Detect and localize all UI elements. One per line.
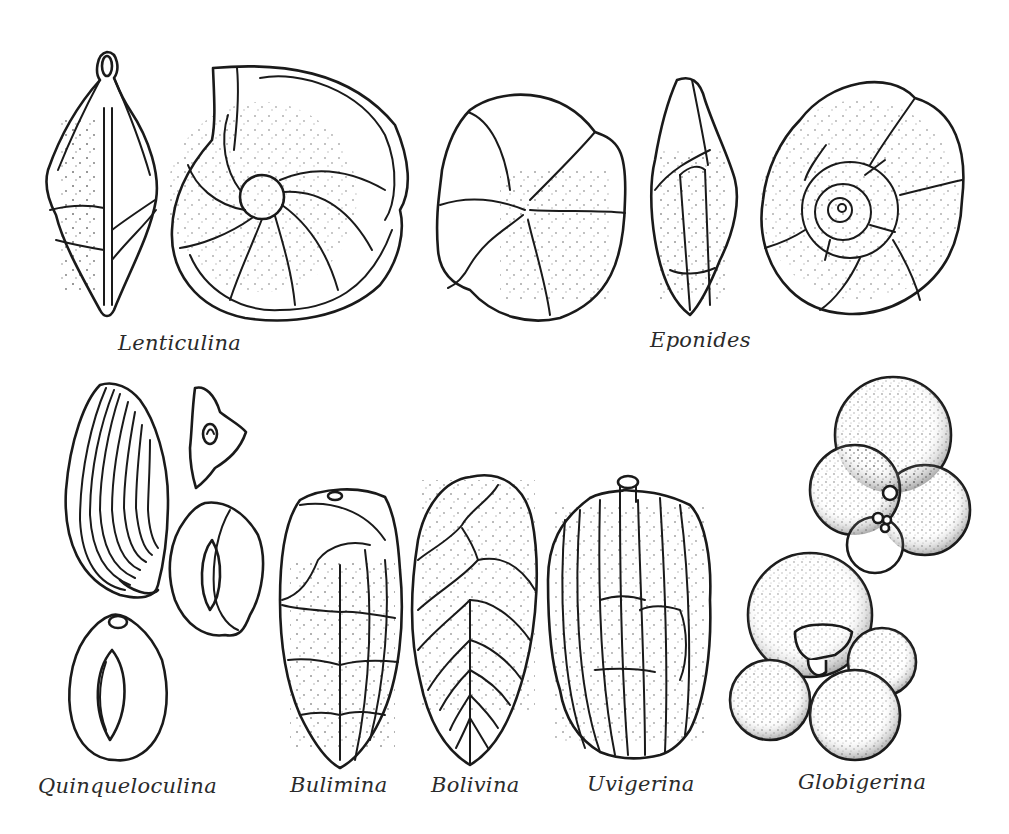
label-uvigerina: Uvigerina <box>587 772 695 796</box>
globigerina-umbilical-view <box>730 553 916 760</box>
specimen-drawings <box>0 0 1009 834</box>
foraminifera-plate: Lenticulina Eponides Quinqueloculina Bul… <box>0 0 1009 834</box>
quinqueloculina-side-view-b <box>69 615 166 761</box>
bulimina-side-view <box>280 489 402 768</box>
label-globigerina: Globigerina <box>798 770 926 794</box>
globigerina-spiral-view <box>810 377 970 573</box>
eponides-edge-view <box>651 78 737 315</box>
label-lenticulina: Lenticulina <box>118 331 241 355</box>
quinqueloculina-costate-test <box>66 383 168 597</box>
lenticulina-edge-view <box>46 52 156 316</box>
label-quinqueloculina: Quinqueloculina <box>38 774 217 798</box>
label-bulimina: Bulimina <box>290 773 387 797</box>
eponides-spiral-view <box>760 82 963 314</box>
uvigerina-side-view <box>548 476 710 758</box>
label-bolivina: Bolivina <box>431 773 520 797</box>
quinqueloculina-apertural-view <box>190 387 246 488</box>
label-eponides: Eponides <box>650 328 751 352</box>
quinqueloculina-side-view-a <box>170 503 263 636</box>
lenticulina-side-view <box>167 66 408 320</box>
bolivina-side-view <box>412 475 537 765</box>
eponides-umbilical-view <box>437 95 625 321</box>
